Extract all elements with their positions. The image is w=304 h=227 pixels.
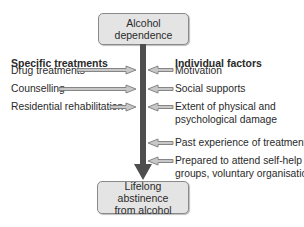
right-arrow-icon (58, 84, 138, 94)
end-node-label-line2: from alcohol (114, 204, 171, 216)
main-flow-arrow-shaft (140, 44, 146, 166)
factor-past-experience-label: Past experience of treatment (175, 137, 304, 148)
end-node-label-line1: Lifelong abstinence (98, 180, 188, 204)
left-arrow-icon (147, 102, 174, 112)
treatment-drug-treatments: Drug treatments (11, 64, 85, 77)
factor-self-help-groups: Prepared to attend self-help groups, vol… (175, 154, 304, 180)
factor-extent-of-damage: Extent of physical and psychological dam… (175, 100, 277, 126)
factor-self-help-line2: groups, voluntary organisations (175, 167, 304, 180)
main-flow-arrowhead-icon (134, 164, 152, 180)
start-node-alcohol-dependence: Alcohol dependence (98, 13, 189, 45)
left-arrow-icon (147, 84, 174, 94)
factor-extent-line1: Extent of physical and (175, 100, 277, 113)
factor-motivation-label: Motivation (175, 65, 222, 76)
treatment-counselling: Counselling (11, 82, 65, 95)
factor-motivation: Motivation (175, 64, 222, 77)
right-arrow-icon (76, 65, 138, 75)
right-arrow-icon (109, 102, 138, 112)
factor-social-supports: Social supports (175, 82, 245, 95)
left-arrow-icon (147, 65, 174, 75)
factor-past-experience: Past experience of treatment (175, 136, 304, 149)
factor-self-help-line1: Prepared to attend self-help (175, 154, 304, 167)
factor-social-supports-label: Social supports (175, 83, 245, 94)
treatment-residential-rehabilitation: Residential rehabilitation (11, 100, 123, 113)
left-arrow-icon (147, 156, 174, 166)
factor-extent-line2: psychological damage (175, 113, 277, 126)
left-arrow-icon (147, 138, 174, 148)
start-node-label: Alcohol dependence (99, 17, 188, 41)
end-node-lifelong-abstinence: Lifelong abstinence from alcohol (97, 181, 189, 214)
